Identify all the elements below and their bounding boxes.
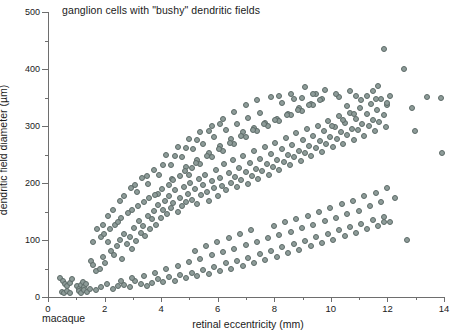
data-point	[289, 142, 295, 148]
x-tick-minor	[76, 297, 77, 300]
data-point	[274, 254, 280, 260]
data-point	[190, 146, 196, 152]
x-tick-major	[444, 297, 445, 302]
data-point	[217, 121, 223, 127]
data-point	[117, 237, 123, 243]
data-point	[322, 218, 328, 224]
x-tick-label: 10	[326, 303, 337, 314]
data-point	[243, 102, 249, 108]
data-point	[211, 134, 217, 140]
data-point	[355, 127, 361, 133]
data-point	[149, 216, 155, 222]
data-point	[313, 145, 319, 151]
data-point	[232, 174, 238, 180]
data-point	[251, 148, 257, 154]
data-point	[376, 119, 382, 125]
data-point	[101, 231, 107, 237]
data-point	[168, 162, 174, 168]
data-point	[223, 187, 229, 193]
data-point	[152, 270, 158, 276]
data-point	[163, 266, 169, 272]
data-point	[175, 209, 181, 215]
data-point	[118, 278, 124, 284]
data-point	[327, 134, 333, 140]
data-point	[200, 182, 206, 188]
data-point	[111, 252, 117, 258]
data-point	[69, 276, 75, 282]
data-point	[284, 112, 290, 118]
data-point	[90, 239, 96, 245]
data-point	[211, 185, 217, 191]
data-point	[129, 246, 135, 252]
data-point	[306, 143, 312, 149]
y-tick-label: 300	[25, 121, 40, 131]
data-point	[115, 219, 121, 225]
data-point	[142, 233, 148, 239]
data-point	[187, 180, 193, 186]
data-point	[378, 199, 384, 205]
x-tick-minor	[303, 297, 304, 300]
data-point	[288, 229, 294, 235]
data-point	[221, 161, 227, 167]
x-tick-major	[218, 297, 219, 302]
x-tick-major	[105, 297, 106, 302]
data-point	[268, 248, 274, 254]
data-point	[310, 133, 316, 139]
data-point	[384, 185, 390, 191]
data-point	[308, 153, 314, 159]
data-point	[170, 200, 176, 206]
data-point	[254, 239, 260, 245]
data-point	[127, 234, 133, 240]
data-point	[342, 233, 348, 239]
data-point	[288, 91, 294, 97]
x-tick-label: 4	[158, 303, 163, 314]
data-point	[344, 211, 350, 217]
data-point	[302, 150, 308, 156]
data-point	[245, 181, 251, 187]
x-tick-minor	[416, 297, 417, 300]
data-point	[310, 91, 316, 97]
data-point	[160, 162, 166, 168]
data-point	[270, 164, 276, 170]
data-point	[238, 133, 244, 139]
data-point	[302, 84, 308, 90]
data-point	[316, 209, 322, 215]
data-point	[338, 129, 344, 135]
data-point	[347, 224, 353, 230]
data-point	[276, 167, 282, 173]
data-point	[145, 181, 151, 187]
data-point	[140, 223, 146, 229]
data-point	[114, 243, 120, 249]
y-tick-label: 100	[25, 235, 40, 245]
data-point	[151, 167, 157, 173]
data-point	[319, 149, 325, 155]
data-point	[102, 260, 108, 266]
data-point	[334, 136, 340, 142]
data-point	[287, 162, 293, 168]
data-point	[149, 280, 155, 286]
data-point	[361, 133, 367, 139]
data-point	[250, 127, 256, 133]
x-tick-label: 0	[45, 303, 50, 314]
data-point	[206, 271, 212, 277]
data-point	[100, 222, 106, 228]
data-point	[97, 266, 103, 272]
data-point	[127, 284, 133, 290]
data-point	[356, 208, 362, 214]
data-point	[185, 191, 191, 197]
data-point	[384, 100, 390, 106]
data-point	[192, 248, 198, 254]
data-point	[170, 177, 176, 183]
data-point	[266, 172, 272, 178]
data-point	[381, 219, 387, 225]
data-point	[231, 246, 237, 252]
data-point	[172, 187, 178, 193]
data-point	[228, 180, 234, 186]
data-point	[152, 192, 158, 198]
data-point	[366, 123, 372, 129]
data-point	[200, 141, 206, 147]
data-point	[291, 96, 297, 102]
data-point	[276, 93, 282, 99]
data-point	[370, 117, 376, 123]
data-point	[253, 166, 259, 172]
